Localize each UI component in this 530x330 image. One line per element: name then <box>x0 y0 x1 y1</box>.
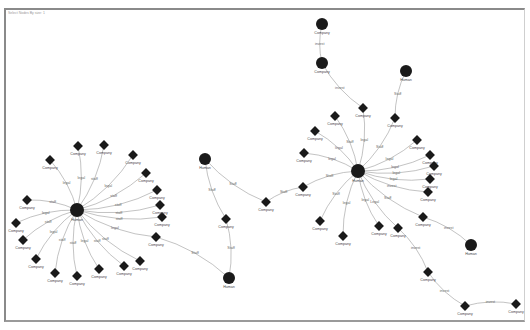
graph-node[interactable]: Company <box>15 235 31 250</box>
graph-node[interactable]: Company <box>96 140 112 155</box>
edge-label: staff <box>91 177 98 181</box>
graph-node[interactable]: Human <box>351 164 365 183</box>
graph-node[interactable]: Company <box>28 254 44 269</box>
diamond-node-icon[interactable] <box>50 268 60 278</box>
graph-node[interactable]: Human <box>400 65 412 82</box>
diamond-node-icon[interactable] <box>155 200 165 210</box>
diamond-node-icon[interactable] <box>412 135 422 145</box>
graph-node[interactable]: Company <box>371 221 387 236</box>
graph-node[interactable]: Company <box>47 268 63 283</box>
edge-line[interactable] <box>423 217 471 245</box>
diamond-node-icon[interactable] <box>460 301 470 311</box>
graph-node[interactable]: Company <box>312 216 328 231</box>
diamond-node-icon[interactable] <box>11 218 21 228</box>
graph-node[interactable]: Company <box>116 261 132 276</box>
graph-node[interactable]: Company <box>409 135 425 150</box>
diamond-node-icon[interactable] <box>310 126 320 136</box>
diamond-node-icon[interactable] <box>299 148 309 158</box>
circle-node-icon[interactable] <box>199 153 211 165</box>
diamond-node-icon[interactable] <box>261 197 271 207</box>
graph-node[interactable]: Company <box>422 174 438 189</box>
diamond-node-icon[interactable] <box>152 185 162 195</box>
graph-node[interactable]: Company <box>314 18 330 35</box>
diamond-node-icon[interactable] <box>330 111 340 121</box>
diamond-node-icon[interactable] <box>128 150 138 160</box>
graph-node[interactable]: Company <box>508 299 524 314</box>
graph-node[interactable]: Company <box>218 214 234 229</box>
graph-node[interactable]: Company <box>138 168 154 183</box>
diamond-node-icon[interactable] <box>418 212 428 222</box>
edge-line[interactable] <box>23 210 77 240</box>
diamond-node-icon[interactable] <box>135 256 145 266</box>
diamond-node-icon[interactable] <box>31 254 41 264</box>
diamond-node-icon[interactable] <box>423 267 433 277</box>
graph-node[interactable]: Company <box>457 301 473 316</box>
diamond-node-icon[interactable] <box>358 103 368 113</box>
circle-node-icon[interactable] <box>316 57 328 69</box>
edge[interactable]: staff <box>77 173 146 210</box>
edge[interactable]: legal <box>358 140 417 171</box>
graph-node[interactable]: Company <box>258 197 274 212</box>
graph-node[interactable]: Company <box>19 195 35 210</box>
graph-node[interactable]: Company <box>296 148 312 163</box>
diamond-node-icon[interactable] <box>338 231 348 241</box>
circle-node-icon[interactable] <box>351 164 365 178</box>
network-graph[interactable]: legalstafflegalstaffstaffstaffstafflegal… <box>0 0 530 330</box>
graph-node[interactable]: Human <box>223 272 235 289</box>
edge[interactable]: Staff <box>156 237 229 278</box>
graph-node[interactable]: Company <box>420 187 436 202</box>
diamond-node-icon[interactable] <box>73 141 83 151</box>
circle-node-icon[interactable] <box>400 65 412 77</box>
graph-node[interactable]: Company <box>390 223 406 238</box>
diamond-node-icon[interactable] <box>94 264 104 274</box>
edge-line[interactable] <box>358 140 417 171</box>
edge[interactable]: legal <box>358 155 430 171</box>
circle-node-icon[interactable] <box>465 239 477 251</box>
diamond-node-icon[interactable] <box>119 261 129 271</box>
edge-label: legal <box>63 181 71 185</box>
graph-node[interactable]: Human <box>465 239 477 256</box>
edge-label: invest <box>387 184 396 188</box>
graph-node[interactable]: Company <box>420 267 436 282</box>
diamond-node-icon[interactable] <box>72 271 82 281</box>
graph-node[interactable]: Company <box>69 271 85 286</box>
graph-node[interactable]: Company <box>42 155 58 170</box>
graph-node[interactable]: Company <box>70 141 86 156</box>
circle-node-icon[interactable] <box>70 203 84 217</box>
edge-line[interactable] <box>77 173 146 210</box>
diamond-node-icon[interactable] <box>374 221 384 231</box>
circle-node-icon[interactable] <box>223 272 235 284</box>
graph-node[interactable]: Human <box>70 203 84 222</box>
graph-node[interactable]: Company <box>314 57 330 74</box>
diamond-node-icon[interactable] <box>99 140 109 150</box>
diamond-node-icon[interactable] <box>221 214 231 224</box>
graph-node[interactable]: Company <box>355 103 371 118</box>
diamond-node-icon[interactable] <box>315 216 325 226</box>
graph-node[interactable]: Company <box>327 111 343 126</box>
diamond-node-icon[interactable] <box>425 150 435 160</box>
diamond-node-icon[interactable] <box>45 155 55 165</box>
graph-node[interactable]: Company <box>125 150 141 165</box>
diamond-node-icon[interactable] <box>151 232 161 242</box>
diamond-node-icon[interactable] <box>390 113 400 123</box>
diamond-node-icon[interactable] <box>141 168 151 178</box>
edge-line[interactable] <box>304 153 358 171</box>
diamond-node-icon[interactable] <box>22 195 32 205</box>
graph-node[interactable]: Company <box>335 231 351 246</box>
graph-node[interactable]: Human <box>199 153 211 170</box>
diamond-node-icon[interactable] <box>298 182 308 192</box>
edge[interactable]: staff <box>23 210 77 240</box>
edge[interactable]: Staff <box>303 171 358 187</box>
edge-line[interactable] <box>156 237 229 278</box>
graph-node[interactable]: Company <box>387 113 403 128</box>
edge[interactable]: invest <box>465 300 516 306</box>
edge[interactable]: legal <box>304 153 358 171</box>
graph-node[interactable]: Company <box>415 212 431 227</box>
graph-node[interactable]: Company <box>91 264 107 279</box>
edge[interactable]: invest <box>423 217 471 245</box>
graph-node[interactable]: Company <box>152 200 168 215</box>
graph-node[interactable]: Company <box>148 232 164 247</box>
diamond-node-icon[interactable] <box>511 299 521 309</box>
circle-node-icon[interactable] <box>316 18 328 30</box>
graph-node[interactable]: Company <box>307 126 323 141</box>
